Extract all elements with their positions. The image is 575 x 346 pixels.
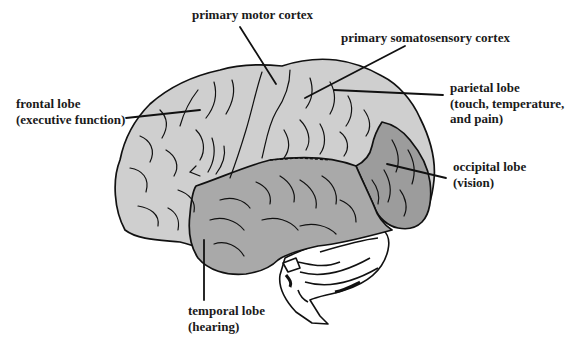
label-frontal-lobe: frontal lobe (executive function) [16,96,125,127]
label-temporal-lobe: temporal lobe (hearing) [188,303,265,334]
label-text: primary motor cortex [192,7,313,23]
label-subtext: (executive function) [16,112,125,128]
label-subtext: and pain) [450,111,564,127]
label-subtext: (touch, temperature, [450,96,564,112]
label-primary-somatosensory-cortex: primary somatosensory cortex [341,30,510,46]
label-text: temporal lobe [188,303,265,319]
label-subtext: (hearing) [188,319,265,335]
label-primary-motor-cortex: primary motor cortex [192,7,313,23]
label-subtext: (vision) [453,175,526,191]
label-parietal-lobe: parietal lobe (touch, temperature, and p… [450,80,564,127]
label-text: frontal lobe [16,96,125,112]
brain-diagram: primary motor cortex primary somatosenso… [0,0,575,346]
label-occipital-lobe: occipital lobe (vision) [453,159,526,190]
label-text: parietal lobe [450,80,564,96]
label-text: primary somatosensory cortex [341,30,510,46]
label-text: occipital lobe [453,159,526,175]
